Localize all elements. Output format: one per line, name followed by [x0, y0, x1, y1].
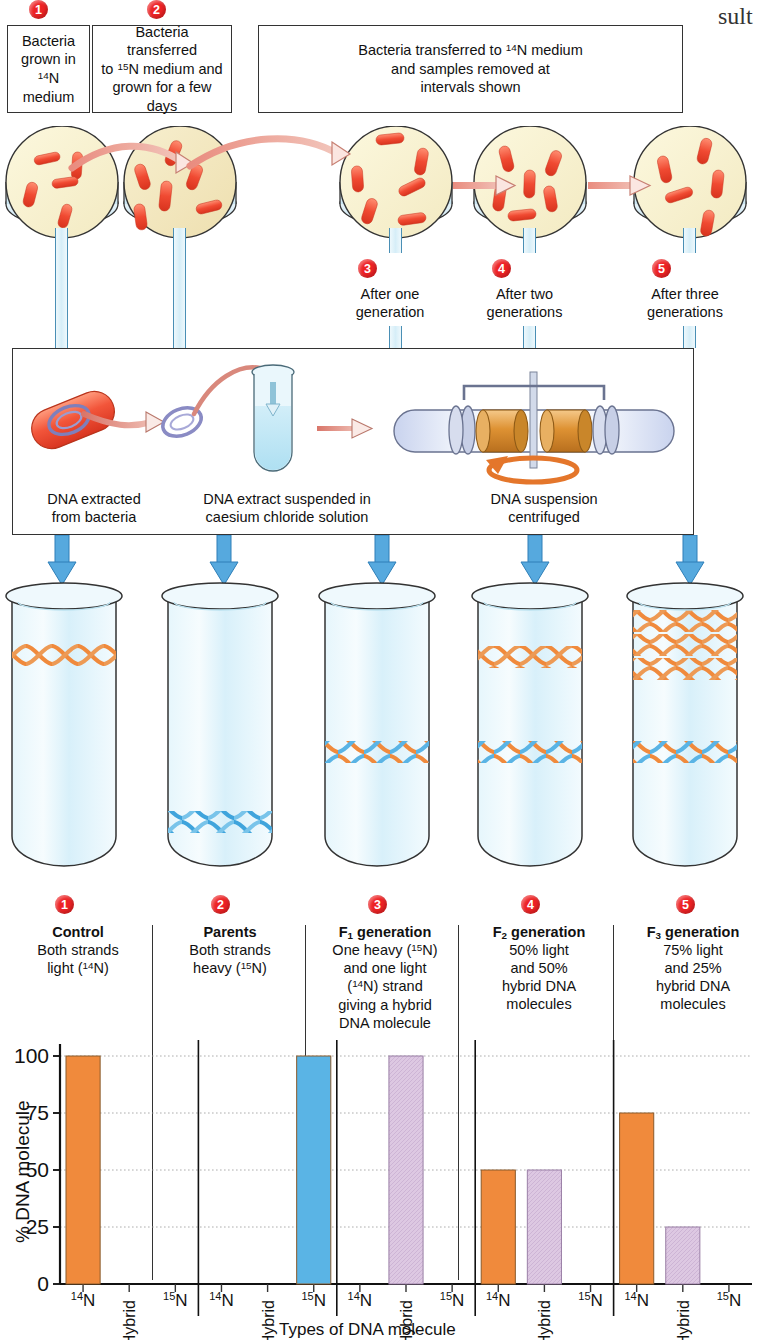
- sample-label-3-line-1: After one: [320, 286, 460, 304]
- chart-x-tick-label: 15N: [440, 1290, 465, 1310]
- petri-dish-1: [6, 126, 118, 238]
- dna-band-hybrid: [325, 741, 429, 763]
- column-heading-3: F1 generation: [310, 924, 460, 942]
- chart-x-tick-label: 14N: [486, 1290, 511, 1310]
- caption-box-3-line-3: intervals shown: [358, 78, 583, 97]
- column-label-5: F3 generation 75% light and 25% hybrid D…: [620, 924, 759, 1014]
- panel-caption-2-line-2: caesium chloride solution: [172, 508, 402, 526]
- caption-box-3-line-1: Bacteria transferred to 14N medium: [358, 41, 583, 60]
- dish-stem-4: [523, 228, 536, 253]
- test-tube-4: [472, 583, 588, 866]
- column-bullet-2: 2: [211, 895, 230, 914]
- column-label-2: Parents Both strands heavy (15N): [160, 924, 300, 978]
- caption-box-2-line-2: to 15N medium and: [99, 60, 225, 79]
- dish-stem-3b: [389, 326, 402, 348]
- dish-stem-5: [683, 228, 696, 253]
- dna-band-light: [633, 634, 737, 656]
- chart-x-tick-label: 14N: [348, 1290, 373, 1310]
- caption-box-2-line-1: Bacteria transferred: [99, 23, 225, 60]
- caption-box-3: Bacteria transferred to 14N medium and s…: [258, 25, 683, 113]
- page-text-fragment: sult: [718, 3, 753, 30]
- step-bullet-2-label: 2: [153, 3, 160, 17]
- column-heading-1: Control: [8, 924, 148, 942]
- step-bullet-1: 1: [29, 0, 48, 19]
- chart-x-tick-label: 14N: [209, 1290, 234, 1310]
- panel-arrow: [317, 426, 357, 431]
- column-bullet-4: 4: [521, 895, 540, 914]
- chart-bar: [527, 1170, 561, 1284]
- test-tube-3: [319, 583, 435, 866]
- caption-box-3-line-2: and samples removed at: [358, 60, 583, 79]
- caption-box-1: Bacteria grown in 14N medium: [7, 25, 90, 113]
- step-bullet-1-label: 1: [35, 3, 42, 17]
- sample-label-3: After one generation: [320, 286, 460, 322]
- chart-x-axis-label: Types of DNA molecule: [279, 1320, 456, 1340]
- column-body-1-line-2: light (14N): [8, 960, 148, 978]
- chart-y-tick-label: 100: [14, 1044, 49, 1067]
- sample-label-4: After two generations: [452, 286, 597, 322]
- chart-bar: [481, 1170, 515, 1284]
- column-bullet-3: 3: [368, 895, 387, 914]
- test-tube-5: [627, 583, 743, 866]
- petri-dish-3: [340, 126, 452, 238]
- column-body-4-line-4: molecules: [466, 996, 612, 1014]
- column-body-3-line-3: (14N) strand: [310, 978, 460, 996]
- caption-box-1-line-2: grown in: [14, 50, 83, 69]
- column-bullet-5: 5: [676, 895, 695, 914]
- caption-box-2: Bacteria transferred to 15N medium and g…: [92, 25, 232, 113]
- panel-caption-3: DNA suspension centrifuged: [424, 490, 664, 526]
- chart-x-tick-label: Hybrid: [675, 1300, 692, 1340]
- panel-caption-1: DNA extracted from bacteria: [18, 490, 170, 526]
- extract-arrow-head: [146, 412, 164, 432]
- chart-bar: [389, 1056, 423, 1284]
- petri-dish-row: [0, 126, 759, 256]
- chart-x-tick-label: 14N: [624, 1290, 649, 1310]
- dish-stem-4b: [523, 326, 536, 348]
- column-heading-2: Parents: [160, 924, 300, 942]
- panel-caption-3-line-2: centrifuged: [424, 508, 664, 526]
- column-heading-5: F3 generation: [620, 924, 759, 942]
- suspension-tube: [252, 365, 294, 471]
- bar-chart: 025507510014NHybrid15N14NHybrid15N14NHyb…: [0, 1040, 759, 1340]
- column-bullet-1: 1: [55, 895, 74, 914]
- chart-bar: [66, 1056, 100, 1284]
- petri-dish-2: [124, 126, 236, 238]
- sample-label-4-line-2: generations: [452, 304, 597, 322]
- dna-band-light: [12, 644, 116, 666]
- column-body-3-line-2: and one light: [310, 960, 460, 978]
- dish-stem-2: [173, 228, 186, 348]
- panel-caption-2: DNA extract suspended in caesium chlorid…: [172, 490, 402, 526]
- sample-label-5: After three generations: [615, 286, 755, 322]
- column-label-3: F1 generation One heavy (15N) and one li…: [310, 924, 460, 1033]
- column-label-1: Control Both strands light (14N): [8, 924, 148, 978]
- chart-x-tick-label: 15N: [163, 1290, 188, 1310]
- chart-bar: [666, 1227, 700, 1284]
- chart-y-tick-label: 0: [37, 1272, 49, 1295]
- caption-box-1-line-3: 14N medium: [14, 69, 83, 106]
- centrifuge-illustration: [394, 372, 674, 482]
- chart-x-tick-label: Hybrid: [536, 1300, 553, 1340]
- panel-caption-1-line-1: DNA extracted: [18, 490, 170, 508]
- petri-dish-5: [634, 126, 746, 238]
- column-body-5-line-3: hybrid DNA: [620, 978, 759, 996]
- chart-y-axis-label: % DNA molecule: [12, 1100, 34, 1243]
- column-body-3-line-4: giving a hybrid: [310, 997, 460, 1015]
- column-heading-4: F2 generation: [466, 924, 612, 942]
- panel-caption-2-line-1: DNA extract suspended in: [172, 490, 402, 508]
- sample-label-3-line-2: generation: [320, 304, 460, 322]
- test-tube-row: [0, 578, 759, 878]
- sample-bullet-3: 3: [358, 259, 377, 278]
- chart-bar: [620, 1113, 654, 1284]
- column-body-4-line-2: and 50%: [466, 960, 612, 978]
- column-body-5-line-2: and 25%: [620, 960, 759, 978]
- step-bullet-2: 2: [147, 0, 166, 19]
- dna-band-light: [478, 646, 582, 668]
- sample-bullet-5: 5: [652, 259, 671, 278]
- test-tube-2: [162, 583, 278, 866]
- column-body-2-line-1: Both strands: [160, 942, 300, 960]
- dish-stem-3: [389, 228, 402, 253]
- column-body-1-line-1: Both strands: [8, 942, 148, 960]
- chart-bar: [297, 1056, 331, 1284]
- chart-x-tick-label: Hybrid: [121, 1300, 138, 1340]
- dish-stem-1: [55, 228, 68, 348]
